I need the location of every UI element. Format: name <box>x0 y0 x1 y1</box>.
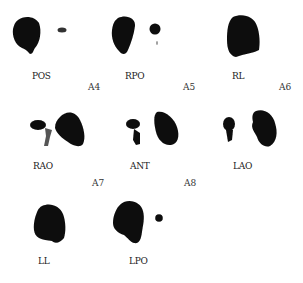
scan-ll <box>34 204 66 242</box>
scan-ant <box>126 112 178 145</box>
view-label-ant: ANT <box>130 161 149 171</box>
scan-lao <box>223 110 277 146</box>
scan-rao <box>30 112 84 146</box>
view-label-lao: LAO <box>233 161 252 171</box>
panel-id-a8: A8 <box>184 178 196 188</box>
scintigraphy-figure: POS RPO RL RAO ANT LAO LL LPO A4 A5 A6 A… <box>0 0 303 283</box>
view-label-lpo: LPO <box>129 256 148 266</box>
scan-lpo <box>113 201 163 243</box>
view-label-rl: RL <box>232 71 244 81</box>
scan-rl <box>227 15 260 57</box>
panel-id-a7: A7 <box>92 178 104 188</box>
panel-id-a4: A4 <box>88 82 100 92</box>
scan-rpo <box>112 16 161 53</box>
view-label-ll: LL <box>38 256 49 266</box>
panel-id-a6: A6 <box>279 82 291 92</box>
view-label-rao: RAO <box>33 161 53 171</box>
scan-pos <box>13 17 67 54</box>
view-label-pos: POS <box>32 71 51 81</box>
panel-id-a5: A5 <box>183 82 195 92</box>
view-label-rpo: RPO <box>125 71 144 81</box>
scan-images <box>0 0 303 283</box>
